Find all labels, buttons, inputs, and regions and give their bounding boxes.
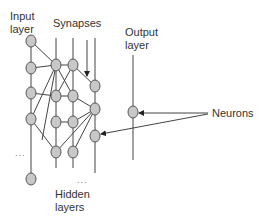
input-neuron-5 (26, 173, 36, 185)
hidden3-neuron-2 (90, 103, 100, 115)
layer-lines (31, 38, 133, 182)
input-neuron-1 (26, 35, 36, 47)
input-layer-label-line2: layer (10, 23, 34, 35)
hidden2-neuron-4 (68, 146, 78, 158)
hidden1-neuron-1 (51, 59, 61, 71)
neuron-pointer-arrow-hidden (101, 114, 208, 134)
hidden1-neuron-3 (51, 116, 61, 128)
hidden3-neuron-3 (90, 130, 100, 142)
hidden2-neuron-1 (68, 59, 78, 71)
hidden-layer-3 (90, 80, 100, 142)
hidden1-neuron-2 (51, 90, 61, 102)
hidden2-neuron-2 (68, 90, 78, 102)
output-layer-label-line1: Output (125, 26, 158, 38)
annotation-arrows (87, 40, 208, 134)
input-ellipsis: ... (15, 148, 26, 158)
hidden-ellipsis: ... (77, 175, 88, 185)
output-layer (128, 106, 138, 118)
synapse-connections (31, 41, 95, 152)
hidden-layers-label-line2: layers (55, 201, 85, 213)
output-layer-label-line2: layer (125, 39, 149, 51)
input-neuron-2 (26, 62, 36, 74)
input-neuron-4 (26, 113, 36, 125)
hidden3-neuron-1 (90, 80, 100, 92)
hidden1-neuron-4 (51, 146, 61, 158)
hidden-layers-label-line1: Hidden (55, 188, 90, 200)
neurons-label: Neurons (212, 107, 254, 119)
hidden2-neuron-3 (68, 116, 78, 128)
neural-network-diagram: Input layer Synapses Output layer Neuron… (0, 0, 260, 224)
synapses-label: Synapses (53, 17, 102, 29)
output-neuron-1 (128, 106, 138, 118)
input-layer-label-line1: Input (10, 10, 34, 22)
input-neuron-3 (26, 87, 36, 99)
